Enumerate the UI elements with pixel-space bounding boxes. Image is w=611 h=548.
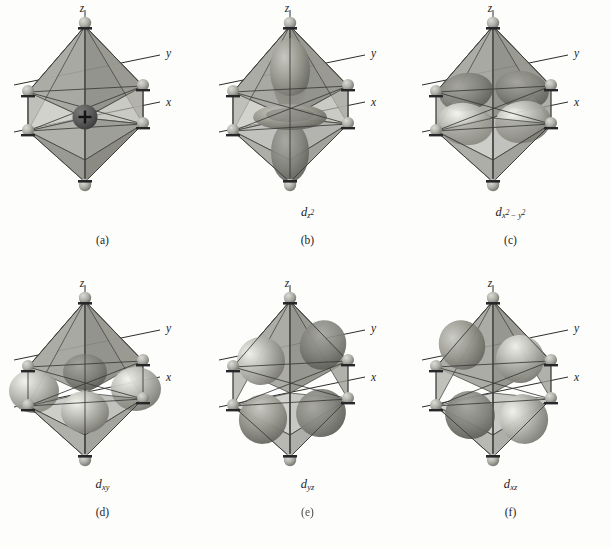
y-axis-label: y bbox=[370, 47, 377, 60]
panel-caption: (a) bbox=[0, 234, 205, 246]
octahedron-body bbox=[28, 26, 143, 182]
z-axis-label: z bbox=[487, 2, 493, 14]
panel-caption: (d) bbox=[0, 506, 205, 518]
panel-caption: (b) bbox=[205, 234, 410, 246]
panel-e: z y x dyz (e) bbox=[205, 273, 410, 548]
y-axis-label: y bbox=[165, 322, 172, 335]
orbital-label-dz2: dz2 bbox=[205, 205, 410, 220]
x-axis-label: x bbox=[370, 96, 377, 108]
x-axis-label: x bbox=[370, 371, 377, 383]
panel-b: z y x dz2 (b) bbox=[205, 0, 410, 273]
x-axis-label: x bbox=[573, 96, 580, 108]
orbital-sub: yz bbox=[307, 483, 314, 492]
x-axis-label: x bbox=[573, 371, 580, 383]
panel-d: z y x dxy (d) bbox=[0, 273, 205, 548]
orbital-sub: xy bbox=[102, 483, 109, 492]
z-axis-label: z bbox=[79, 277, 85, 289]
orbital-sub-y-sup: 2 bbox=[522, 209, 526, 217]
panel-a: z y x (a) bbox=[0, 0, 205, 273]
panel-caption: (c) bbox=[410, 234, 611, 246]
y-axis-label: y bbox=[165, 47, 172, 60]
orbital-label-dyz: dyz bbox=[205, 477, 410, 492]
orbital-label-dxz: dxz bbox=[410, 477, 611, 492]
panel-a-diagram: z y x bbox=[0, 0, 205, 273]
orbital-figure-grid: z y x (a) bbox=[0, 0, 611, 548]
panel-c-diagram: z y x bbox=[410, 0, 611, 273]
y-axis-label: y bbox=[370, 322, 377, 335]
z-axis-label: z bbox=[284, 277, 290, 289]
orbital-label-dx2y2: dx2 − y2 bbox=[410, 205, 611, 220]
y-axis-label: y bbox=[573, 322, 580, 335]
panel-c: z y x dx2 − y2 (c) bbox=[410, 0, 611, 273]
panel-caption: (f) bbox=[410, 506, 611, 518]
panel-f: z y x dxz (f) bbox=[410, 273, 611, 548]
orbital-sub: xz bbox=[510, 483, 517, 492]
metal-center bbox=[73, 105, 98, 130]
panel-b-diagram: z y x bbox=[205, 0, 410, 273]
y-axis-label: y bbox=[573, 47, 580, 60]
orbital-sub-sup: 2 bbox=[311, 209, 315, 217]
x-axis-label: x bbox=[165, 96, 172, 108]
z-axis-label: z bbox=[284, 2, 290, 14]
orbital-label-dxy: dxy bbox=[0, 477, 205, 492]
z-axis-label: z bbox=[487, 277, 493, 289]
panel-caption: (e) bbox=[205, 506, 410, 518]
x-axis-label: x bbox=[165, 371, 172, 383]
z-axis-label: z bbox=[79, 2, 85, 14]
